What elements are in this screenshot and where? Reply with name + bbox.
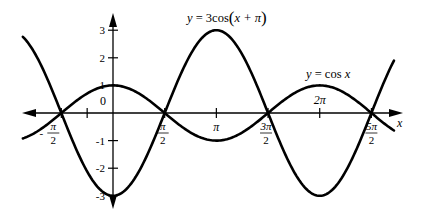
chart: π2-π2π3π22π5π2 321-1-2-3 y = 3cos(x + π)… (0, 0, 423, 220)
y-tick-label: 2 (100, 52, 106, 64)
curve-label-3cos: y = 3cos(x + π) (185, 8, 267, 27)
y-tick-label: -1 (96, 135, 105, 147)
x-ticks: π2-π2π3π22π5π2 (39, 93, 377, 146)
x-tick-label-denominator: 2 (263, 134, 269, 146)
y-axis-up-arrow-icon (109, 13, 117, 27)
x-tick-label-denominator: 2 (369, 134, 375, 146)
x-tick-label: π (213, 120, 220, 134)
x-tick-label-denominator: 2 (160, 134, 166, 146)
origin-label: 0 (100, 94, 106, 108)
y-tick-label: 3 (100, 24, 106, 36)
curve-label-cos: y = cos x (304, 67, 351, 81)
chart-svg: π2-π2π3π22π5π2 321-1-2-3 y = 3cos(x + π)… (0, 0, 423, 220)
x-tick-label: 2π (314, 93, 327, 107)
x-tick-label-denominator: 2 (51, 134, 57, 146)
x-axis-label: x (396, 116, 403, 130)
y-tick-label: -2 (96, 162, 105, 174)
y-axis-down-arrow-icon (109, 195, 117, 209)
axes (30, 26, 396, 202)
x-axis-left-arrow-icon (22, 109, 36, 117)
